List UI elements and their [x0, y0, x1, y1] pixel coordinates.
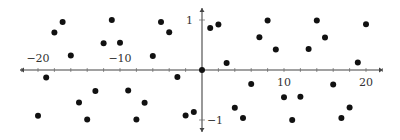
data-point [76, 100, 82, 106]
data-point [355, 60, 361, 66]
data-point [297, 94, 303, 100]
data-point [224, 60, 230, 66]
data-point [330, 81, 336, 87]
data-point [338, 115, 344, 121]
data-point [84, 117, 90, 123]
data-point [281, 94, 287, 100]
data-point [117, 40, 123, 46]
data-point [35, 113, 41, 119]
y-axis-arrow-up [200, 8, 205, 12]
data-point [183, 112, 189, 118]
data-point [43, 75, 49, 81]
data-point [125, 88, 131, 94]
data-point [207, 25, 213, 31]
scatter-plot: −20−1010201−1 [0, 0, 400, 140]
data-point [51, 29, 57, 35]
data-point [101, 40, 107, 46]
x-tick-label: 20 [359, 76, 373, 89]
data-point [256, 34, 262, 40]
data-point [248, 81, 254, 87]
data-point [322, 35, 328, 41]
data-point [109, 17, 115, 23]
y-tick-label: 1 [186, 14, 193, 27]
data-point [158, 19, 164, 25]
data-point [240, 115, 246, 121]
data-point [142, 100, 148, 106]
data-point [347, 105, 353, 111]
data-point [150, 53, 156, 59]
x-tick-label: 10 [277, 76, 291, 89]
data-point [166, 29, 172, 35]
data-point [174, 74, 180, 80]
data-point [133, 116, 139, 122]
data-point [215, 22, 221, 28]
x-axis-arrow-left [20, 68, 24, 73]
data-point [363, 21, 369, 27]
data-point [199, 67, 205, 73]
data-point [68, 53, 74, 59]
x-tick-label: −20 [26, 52, 49, 65]
data-point [306, 46, 312, 52]
data-point [92, 88, 98, 94]
data-point [191, 109, 197, 115]
data-point [289, 117, 295, 123]
data-point [273, 46, 279, 52]
data-point [232, 105, 238, 111]
data-point [314, 17, 320, 23]
y-tick-label: −1 [207, 114, 223, 127]
y-axis-arrow-down [200, 128, 205, 132]
data-point [265, 18, 271, 24]
data-point [60, 19, 66, 25]
x-tick-label: −10 [108, 52, 131, 65]
